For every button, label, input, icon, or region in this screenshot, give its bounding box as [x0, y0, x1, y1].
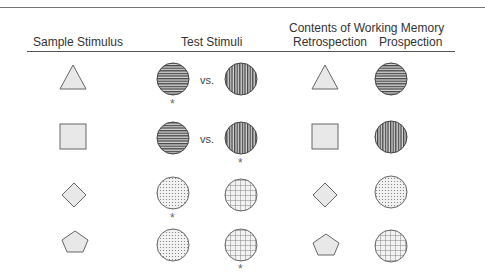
grid-circle-icon: [225, 179, 257, 211]
row-3: [62, 176, 407, 211]
grid-circle-icon: [225, 229, 257, 261]
correct-marker-row-2: *: [238, 156, 243, 170]
row-2: [60, 121, 407, 154]
square-icon: [60, 124, 86, 149]
horizontal-stripes-circle-icon: [157, 63, 189, 95]
horizontal-stripes-circle-icon: [157, 122, 189, 154]
stimuli-figure: [0, 0, 485, 272]
triangle-icon: [312, 65, 338, 89]
vertical-stripes-circle-icon: [225, 63, 257, 95]
vs-label-row-1: vs.: [200, 74, 214, 86]
horizontal-stripes-circle-icon: [375, 63, 407, 95]
vertical-stripes-circle-icon: [375, 121, 407, 153]
pentagon-icon: [313, 234, 339, 255]
grid-circle-icon: [375, 230, 407, 262]
triangle-icon: [60, 65, 86, 89]
square-icon: [312, 124, 338, 149]
row-1: [60, 63, 407, 95]
vs-label-row-2: vs.: [200, 133, 214, 145]
correct-marker-row-1: *: [170, 97, 175, 111]
correct-marker-row-3: *: [170, 211, 175, 225]
row-4: [62, 229, 407, 262]
correct-marker-row-4: *: [238, 262, 243, 272]
dotted-circle-icon: [375, 176, 407, 208]
diamond-icon: [62, 183, 86, 207]
pentagon-icon: [62, 231, 88, 252]
dotted-circle-icon: [157, 229, 189, 261]
dotted-circle-icon: [157, 177, 189, 209]
vertical-stripes-circle-icon: [225, 122, 257, 154]
diamond-icon: [313, 183, 337, 207]
